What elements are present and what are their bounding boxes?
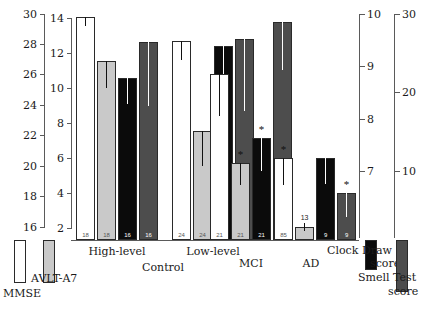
multi-axis-bar-chart: 30 28 26 24 22 20 18 16 14 12 10 8 6 4 2…: [0, 0, 431, 316]
n-label: 9: [316, 232, 335, 238]
bar-lowlevel-mmse: [172, 41, 191, 240]
n-label: 21: [210, 232, 229, 238]
clock-tick-label: 8: [367, 114, 391, 125]
avlt-tick-label: 2: [44, 223, 64, 234]
smell-tick: [395, 92, 400, 93]
smell-tick-label: 20: [402, 87, 430, 98]
avlt-tick-label: 10: [44, 83, 64, 94]
clock-tick: [360, 66, 365, 67]
n-label: 21: [231, 232, 250, 238]
avlt-tick: [67, 228, 72, 229]
errorbar-highlevel-smell: [148, 42, 149, 106]
legend-label-avlt: AVLT-A7: [31, 273, 77, 285]
n-label: 16: [139, 232, 158, 238]
mmse-tick-label: 28: [4, 39, 37, 50]
errorbar-ad-avlt: [304, 223, 305, 231]
errorbar-mci-clock: [261, 138, 262, 171]
legend-label-clock-line1: Clock Draw: [327, 245, 392, 257]
avlt-tick-label: 6: [44, 153, 64, 164]
errorbar-highlevel-clock: [127, 78, 128, 104]
bar-highlevel-mmse: [76, 17, 95, 240]
n-label: 85: [274, 232, 293, 238]
clock-tick-label: 10: [367, 9, 391, 20]
group-label-ad: AD: [276, 258, 346, 270]
smell-tick: [395, 14, 400, 15]
avlt-tick-label: 14: [44, 13, 64, 24]
avlt-tick: [67, 123, 72, 124]
mmse-tick-label: 16: [4, 222, 37, 233]
legend-label-smell-line2: score: [388, 286, 418, 298]
avlt-tick-label: 12: [44, 48, 64, 59]
smell-tick: [395, 171, 400, 172]
mmse-tick-label: 18: [4, 191, 37, 202]
mmse-tick: [40, 166, 45, 167]
mmse-tick: [40, 74, 45, 75]
avlt-tick: [67, 158, 72, 159]
mmse-tick: [40, 44, 45, 45]
errorbar-mci-avlt: [240, 163, 241, 185]
n-label: 24: [172, 232, 191, 238]
mmse-tick-label: 20: [4, 161, 37, 172]
errorbar-lowlevel-mmse: [181, 41, 182, 60]
errorbar-highlevel-mmse: [85, 17, 86, 26]
errorbar-ad-mmse: [283, 158, 284, 185]
group-label-highlevel: High-level: [72, 246, 162, 258]
mmse-tick-label: 22: [4, 130, 37, 141]
errorbar-mci-mmse: [219, 74, 220, 116]
avlt-tick: [67, 53, 72, 54]
significance-asterisk: *: [252, 125, 271, 133]
mmse-tick-label: 26: [4, 69, 37, 80]
mmse-tick: [40, 105, 45, 106]
errorbar-lowlevel-clock: [223, 46, 224, 74]
errorbar-ad-clock: [325, 158, 326, 184]
clock-tick: [360, 14, 365, 15]
smell-tick-label: 10: [402, 166, 430, 177]
avlt-tick-label: 8: [44, 118, 64, 129]
n-label: 9: [337, 232, 356, 238]
significance-asterisk: *: [274, 145, 293, 153]
clock-tick-label: 7: [367, 166, 391, 177]
mmse-tick-label: 30: [4, 9, 37, 20]
supergroup-label-control: Control: [118, 262, 208, 274]
significance-asterisk: *: [337, 180, 356, 188]
smell-axis-line: [394, 14, 395, 238]
clock-tick: [360, 171, 365, 172]
errorbar-ad-smell: [346, 193, 347, 217]
n-label: 13: [295, 214, 314, 221]
legend-swatch-mmse: [14, 240, 26, 283]
errorbar-lowlevel-smell: [244, 39, 245, 111]
avlt-tick: [67, 88, 72, 89]
mmse-tick: [40, 135, 45, 136]
n-label: 21: [252, 232, 271, 238]
errorbar-mci-smell: [282, 22, 283, 70]
errorbar-highlevel-avlt: [106, 61, 107, 88]
mmse-tick-label: 24: [4, 100, 37, 111]
smell-tick-label: 30: [402, 9, 430, 20]
clock-axis-line: [359, 14, 360, 238]
n-label: 18: [97, 232, 116, 238]
avlt-tick-label: 4: [44, 188, 64, 199]
avlt-tick: [67, 18, 72, 19]
n-label: 16: [118, 232, 137, 238]
plot-baseline: [71, 240, 359, 241]
avlt-tick: [67, 193, 72, 194]
clock-tick-label: 9: [367, 61, 391, 72]
significance-asterisk: *: [231, 150, 250, 158]
legend-label-mmse: MMSE: [3, 288, 41, 300]
legend-label-smell-line1: Smell Test: [358, 272, 416, 284]
errorbar-lowlevel-avlt: [202, 131, 203, 166]
clock-tick: [360, 119, 365, 120]
n-label: 18: [76, 232, 95, 238]
